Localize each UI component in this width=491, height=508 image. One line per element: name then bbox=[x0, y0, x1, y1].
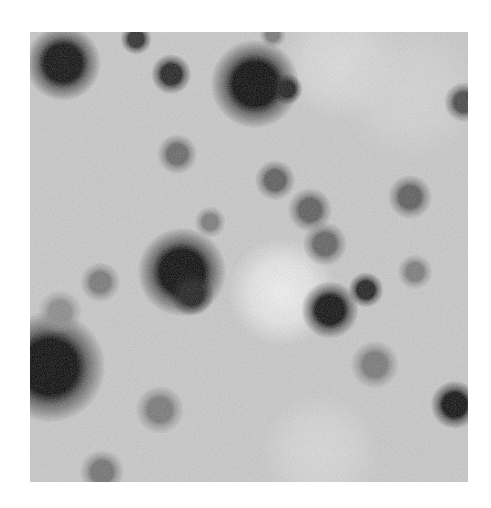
astronomical-image bbox=[30, 32, 468, 482]
noise-texture bbox=[30, 32, 468, 482]
